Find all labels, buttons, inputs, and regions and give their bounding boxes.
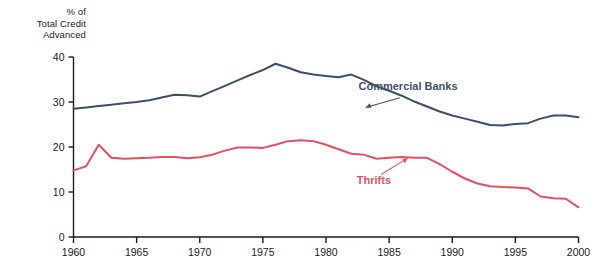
y-tick-label: 40 bbox=[53, 51, 65, 63]
chart-canvas: 010203040 196019651970197519801985199019… bbox=[0, 0, 604, 267]
y-axis-ticks: 010203040 bbox=[53, 51, 74, 243]
series-annotation-label: Commercial Banks bbox=[359, 80, 458, 92]
credit-share-line-chart: % of Total Credit Advanced 010203040 196… bbox=[0, 0, 604, 267]
x-tick-label: 1985 bbox=[377, 246, 401, 258]
annotation-leader-line bbox=[366, 98, 400, 108]
x-tick-label: 1970 bbox=[188, 246, 212, 258]
x-axis-ticks: 196019651970197519801985199019952000 bbox=[62, 237, 591, 258]
y-tick-label: 0 bbox=[59, 231, 65, 243]
annotations-group: Commercial BanksThrifts bbox=[357, 80, 458, 186]
series-line-thrifts bbox=[74, 140, 579, 207]
x-tick-label: 1960 bbox=[62, 246, 86, 258]
y-tick-label: 30 bbox=[53, 96, 65, 108]
x-tick-label: 2000 bbox=[567, 246, 591, 258]
x-tick-label: 1965 bbox=[125, 246, 149, 258]
y-tick-label: 20 bbox=[53, 141, 65, 153]
x-tick-label: 1980 bbox=[314, 246, 338, 258]
y-tick-label: 10 bbox=[53, 186, 65, 198]
axes bbox=[74, 57, 579, 237]
series-line-commercial-banks bbox=[74, 64, 579, 126]
x-tick-label: 1975 bbox=[251, 246, 275, 258]
series-annotation-label: Thrifts bbox=[357, 174, 391, 186]
x-tick-label: 1990 bbox=[441, 246, 465, 258]
x-tick-label: 1995 bbox=[504, 246, 528, 258]
data-series-group bbox=[74, 64, 579, 208]
